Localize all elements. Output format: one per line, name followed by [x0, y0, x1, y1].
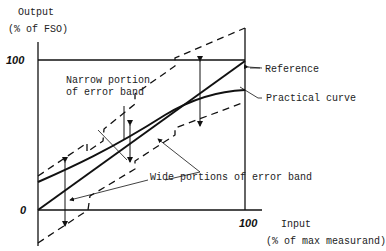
wide-band-label: Wide portions of error band [150, 172, 312, 183]
upper-error-band [38, 28, 245, 176]
error-band-diagram: Output (% of FSO) 100 0 100 Input (% of … [0, 0, 386, 251]
y-axis-label-line2: (% of FSO) [8, 24, 68, 35]
narrow-band-label-line1: Narrow portion [66, 75, 150, 86]
y-tick-0: 0 [20, 204, 27, 216]
narrow-band-label-line2: of error band [66, 87, 144, 98]
x-axis-label-line1: Input [281, 219, 311, 230]
y-axis-label-line1: Output [18, 7, 54, 18]
practical-curve-label: Practical curve [266, 93, 356, 104]
x-axis-label-line2: (% of max measurand) [266, 236, 386, 247]
y-tick-100: 100 [6, 54, 25, 66]
x-tick-100: 100 [239, 217, 258, 229]
reference-label: Reference [265, 64, 319, 75]
